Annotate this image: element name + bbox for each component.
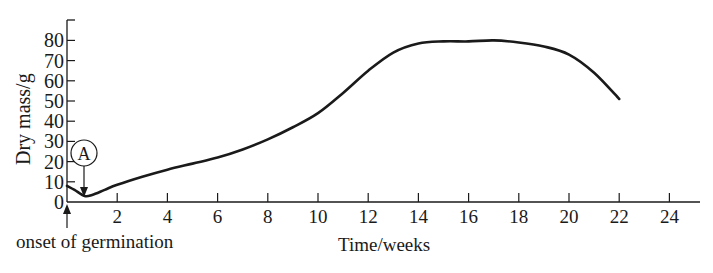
x-tick-label: 20 xyxy=(560,206,579,227)
dry-mass-curve xyxy=(67,40,619,196)
y-tick-label: 50 xyxy=(44,90,64,112)
y-tick-label: 20 xyxy=(44,151,64,173)
y-tick-label: 0 xyxy=(54,191,64,213)
x-tick-labels: 24681012141618202224 xyxy=(112,206,679,227)
x-tick-label: 24 xyxy=(660,206,680,227)
x-tick-label: 18 xyxy=(509,206,528,227)
annotation-a: A xyxy=(71,140,97,197)
y-tick-label: 60 xyxy=(44,70,64,92)
y-tick-labels: 01020304050607080 xyxy=(44,29,64,213)
y-tick-label: 10 xyxy=(44,171,64,193)
x-tick-label: 14 xyxy=(409,206,429,227)
x-tick-label: 10 xyxy=(309,206,328,227)
y-tick-label: 80 xyxy=(44,29,64,51)
x-tick-label: 16 xyxy=(459,206,478,227)
x-tick-label: 2 xyxy=(112,206,122,227)
x-ticks xyxy=(117,193,669,202)
x-axis-label: Time/weeks xyxy=(338,234,430,255)
chart: 01020304050607080 24681012141618202224 D… xyxy=(0,0,713,273)
onset-annotation: onset of germination xyxy=(16,204,174,252)
x-tick-label: 12 xyxy=(359,206,378,227)
axes xyxy=(67,20,700,202)
y-axis-label: Dry mass/g xyxy=(12,73,35,165)
x-tick-label: 8 xyxy=(263,206,273,227)
y-tick-label: 70 xyxy=(44,50,64,72)
onset-label: onset of germination xyxy=(16,231,174,252)
y-tick-label: 30 xyxy=(44,130,64,152)
annotation-a-label: A xyxy=(78,144,91,164)
x-tick-label: 4 xyxy=(163,206,173,227)
x-tick-label: 6 xyxy=(213,206,223,227)
x-tick-label: 22 xyxy=(610,206,629,227)
y-tick-label: 40 xyxy=(44,110,64,132)
